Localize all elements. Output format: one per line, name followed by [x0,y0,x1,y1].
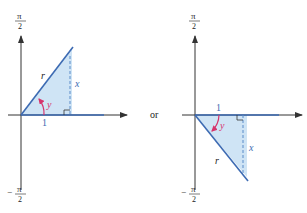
right-top-label-num: π [191,11,196,21]
right-hyp-label: r [215,155,219,166]
or-connector: or [150,109,159,120]
left-bottom-label-sign: − [7,187,12,197]
left-diagram: π 2 − π 2 r x y 1 [7,11,127,204]
left-bottom-label-den: 2 [18,195,22,204]
left-hyp-label: r [41,70,45,81]
right-base-label: 1 [216,102,221,113]
right-angle-label: y [219,120,225,131]
left-bottom-label-num: π [17,184,22,194]
left-angle-label: y [46,99,52,110]
left-top-label-num: π [17,11,22,21]
right-bottom-label-num: π [191,184,196,194]
right-top-label-den: 2 [192,22,196,31]
right-diagram: π 2 − π 2 r x y 1 [181,11,302,204]
right-bottom-label-sign: − [181,187,186,197]
left-side-label: x [74,78,80,89]
left-top-label-den: 2 [18,22,22,31]
right-side-label: x [248,142,254,153]
right-bottom-label-den: 2 [192,195,196,204]
left-base-label: 1 [42,117,47,128]
diagram-canvas: π 2 − π 2 r x y 1 or π 2 − π 2 r x y 1 [0,0,307,213]
